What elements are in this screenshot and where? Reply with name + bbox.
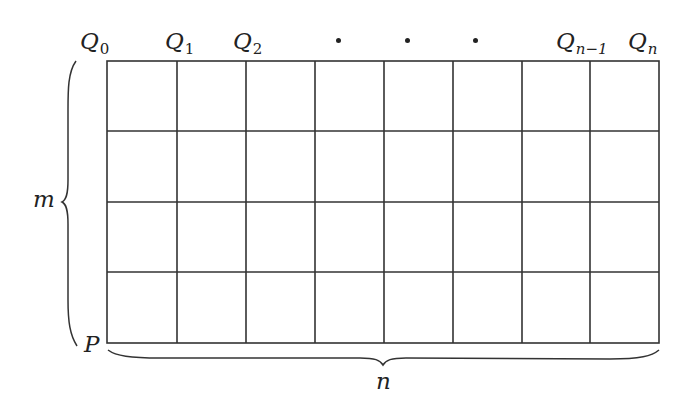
grid-lines <box>107 61 659 343</box>
corner-p-label: P <box>84 333 99 356</box>
n-label: n <box>376 370 391 393</box>
ellipsis-dot <box>336 38 341 43</box>
q0-label: Q0 <box>80 30 109 57</box>
m-label: m <box>33 188 55 211</box>
ellipsis-dot <box>473 38 478 43</box>
qn-minus-1-label: Qn−1 <box>556 30 608 57</box>
grid-svg <box>0 0 699 403</box>
qn-label: Qn <box>628 30 658 57</box>
q2-label: Q2 <box>233 30 262 57</box>
bottom-brace-icon <box>108 350 659 365</box>
ellipsis-dot <box>405 38 410 43</box>
q1-label: Q1 <box>165 30 194 57</box>
left-brace-icon <box>62 61 77 346</box>
lattice-diagram: Q0 Q1 Q2 Qn−1 Qn P m n <box>0 0 699 403</box>
